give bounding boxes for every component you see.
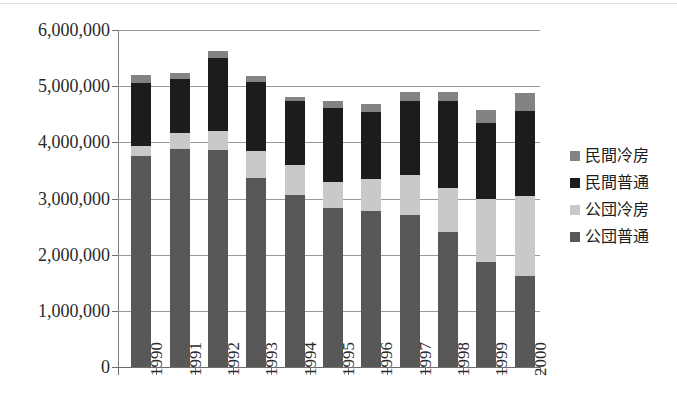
- legend-swatch-icon: [570, 151, 580, 161]
- legend-item-2[interactable]: 公団冷房: [570, 196, 677, 223]
- bar-segment: [400, 101, 420, 176]
- chart-legend: 民間冷房民間普通公団冷房公団普通: [570, 142, 677, 250]
- bar-segment: [246, 178, 266, 367]
- legend-swatch-icon: [570, 232, 580, 242]
- bar-segment: [208, 58, 228, 131]
- bar-1997: [400, 30, 420, 367]
- bar-segment: [170, 149, 190, 367]
- bar-segment: [246, 151, 266, 177]
- x-axis-label-1997: 1997: [416, 342, 436, 376]
- plot-area: [118, 30, 540, 367]
- stacked-bar-chart: 01,000,0002,000,0003,000,0004,000,0005,0…: [0, 0, 677, 420]
- x-axis-labels: 1990199119921993199419951996199719981999…: [118, 372, 541, 420]
- y-axis-label: 6,000,000: [2, 21, 110, 39]
- bar-segment: [208, 51, 228, 58]
- x-axis-label-1995: 1995: [339, 342, 359, 376]
- y-axis-label: 5,000,000: [2, 77, 110, 95]
- y-axis-label: 3,000,000: [2, 190, 110, 208]
- bar-segment: [131, 83, 151, 146]
- bar-segment: [285, 97, 305, 100]
- bar-segment: [438, 92, 458, 101]
- legend-swatch-icon: [570, 178, 580, 188]
- y-axis-label: 2,000,000: [2, 246, 110, 264]
- x-axis-label-2000: 2000: [531, 342, 551, 376]
- x-axis-label-1992: 1992: [224, 342, 244, 376]
- bar-segment: [323, 108, 343, 182]
- bar-segment: [515, 196, 535, 276]
- x-axis-label-1990: 1990: [147, 342, 167, 376]
- bar-segment: [170, 133, 190, 149]
- x-axis-label-1991: 1991: [186, 342, 206, 376]
- scan-artifact-line: [0, 3, 677, 4]
- bar-1999: [476, 30, 496, 367]
- y-axis-label: 1,000,000: [2, 302, 110, 320]
- bar-segment: [208, 150, 228, 367]
- bar-2000: [515, 30, 535, 367]
- bar-segment: [476, 123, 496, 199]
- bar-segment: [170, 79, 190, 132]
- bar-segment: [400, 175, 420, 214]
- bar-segment: [438, 101, 458, 188]
- x-axis-label-1998: 1998: [454, 342, 474, 376]
- bar-segment: [361, 112, 381, 179]
- legend-swatch-icon: [570, 205, 580, 215]
- legend-label: 公団普通: [585, 229, 649, 245]
- y-axis-label: 4,000,000: [2, 133, 110, 151]
- bar-segment: [515, 93, 535, 111]
- bar-1995: [323, 30, 343, 367]
- bar-1991: [170, 30, 190, 367]
- legend-label: 公団冷房: [585, 202, 649, 218]
- bar-1994: [285, 30, 305, 367]
- bar-segment: [323, 101, 343, 108]
- legend-item-0[interactable]: 民間冷房: [570, 142, 677, 169]
- x-axis-label-1996: 1996: [377, 342, 397, 376]
- bar-segment: [131, 75, 151, 83]
- bar-segment: [170, 73, 190, 80]
- bar-series-container: [118, 30, 540, 367]
- x-axis-label-1999: 1999: [492, 342, 512, 376]
- bar-segment: [323, 182, 343, 208]
- bar-segment: [131, 156, 151, 367]
- legend-item-1[interactable]: 民間普通: [570, 169, 677, 196]
- bar-segment: [400, 92, 420, 101]
- bar-segment: [131, 146, 151, 156]
- bar-1993: [246, 30, 266, 367]
- bar-1992: [208, 30, 228, 367]
- x-axis-label-1994: 1994: [301, 342, 321, 376]
- bar-segment: [285, 101, 305, 165]
- y-axis-labels: 01,000,0002,000,0003,000,0004,000,0005,0…: [0, 30, 110, 368]
- bar-segment: [361, 104, 381, 112]
- bar-segment: [285, 165, 305, 195]
- legend-label: 民間冷房: [585, 148, 649, 164]
- bar-segment: [515, 111, 535, 196]
- bar-segment: [208, 131, 228, 150]
- bar-1990: [131, 30, 151, 367]
- bar-segment: [476, 199, 496, 262]
- legend-label: 民間普通: [585, 175, 649, 191]
- bar-segment: [246, 76, 266, 83]
- bar-segment: [361, 179, 381, 210]
- bar-segment: [476, 110, 496, 123]
- y-axis-label: 0: [2, 358, 110, 376]
- bar-1996: [361, 30, 381, 367]
- bar-segment: [246, 82, 266, 151]
- bar-segment: [438, 188, 458, 232]
- x-axis-label-1993: 1993: [262, 342, 282, 376]
- legend-item-3[interactable]: 公団普通: [570, 223, 677, 250]
- bar-1998: [438, 30, 458, 367]
